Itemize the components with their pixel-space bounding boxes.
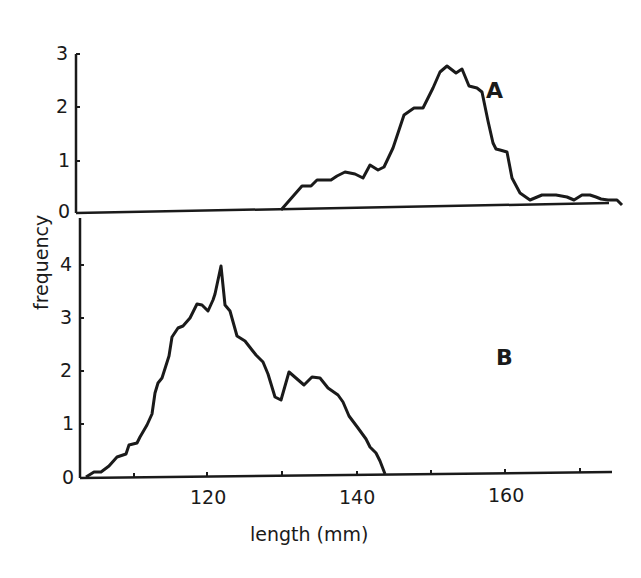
lower-x-axis <box>80 472 612 478</box>
lower-ytick-1: 1 <box>62 412 74 434</box>
lower-ytick-2: 2 <box>60 359 72 381</box>
lower-ytick-3: 3 <box>60 306 72 328</box>
y-axis-label: frequency <box>30 215 52 310</box>
series-a-line <box>281 66 622 210</box>
lower-ytick-0: 0 <box>62 466 74 488</box>
upper-ytick-1: 1 <box>58 149 70 171</box>
series-b-line <box>86 266 385 477</box>
xtick-160: 160 <box>488 484 524 506</box>
xtick-120: 120 <box>190 486 226 508</box>
panel-label-b: B <box>496 345 513 370</box>
xtick-140: 140 <box>339 486 375 508</box>
upper-ytick-0: 0 <box>58 200 70 222</box>
lower-ytick-4: 4 <box>60 253 72 275</box>
upper-x-axis <box>76 203 609 213</box>
upper-ytick-2: 2 <box>56 95 68 117</box>
chart-canvas <box>0 0 641 578</box>
upper-ytick-3: 3 <box>56 42 68 64</box>
x-axis-label: length (mm) <box>250 523 368 545</box>
panel-label-a: A <box>486 78 503 103</box>
